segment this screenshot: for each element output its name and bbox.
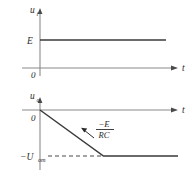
upper-y-axis-label-sub: i [37, 10, 39, 17]
upper-x-axis-arrowhead [171, 65, 178, 70]
upper-origin-label: 0 [31, 70, 36, 80]
lower-origin-label: 0 [31, 113, 36, 123]
saturation-tick-label: −U [20, 152, 34, 162]
upper-y-tick-label-E: E [26, 36, 33, 46]
lower-y-axis-label: u [30, 91, 35, 101]
upper-y-axis-label: u [30, 5, 35, 15]
lower-x-axis-label: t [182, 105, 185, 115]
annotation-leader-line [84, 130, 94, 138]
slope-annotation: −E RC [81, 119, 114, 140]
waveform-figure: u i E 0 t u o [0, 0, 194, 174]
lower-y-axis-label-sub: o [37, 96, 40, 103]
slope-denominator: RC [98, 130, 110, 140]
lower-chart: u o 0 −U om t −E RC [20, 91, 185, 170]
lower-x-axis-arrowhead [171, 107, 178, 112]
upper-x-axis-label: t [182, 63, 185, 73]
upper-y-axis-arrowhead [38, 8, 43, 14]
saturation-tick-label-sub: om [38, 156, 46, 163]
waveform-svg: u i E 0 t u o [0, 0, 194, 174]
upper-chart: u i E 0 t [22, 5, 185, 80]
slope-numerator: −E [98, 119, 110, 129]
